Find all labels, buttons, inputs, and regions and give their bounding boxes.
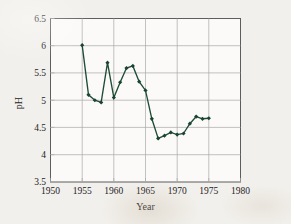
y-axis-title: pH (13, 97, 24, 109)
x-tick-label: 1975 (199, 186, 218, 196)
y-tick-label: 5 (41, 96, 46, 106)
x-tick-label: 1950 (41, 186, 60, 196)
y-tick-label: 4.5 (34, 123, 46, 133)
x-tick-label: 1980 (231, 186, 250, 196)
x-tick-label: 1965 (136, 186, 155, 196)
x-axis-tick-labels: 1950 1955 1960 1965 1970 1975 1980 (41, 186, 250, 196)
y-tick-label: 5.5 (34, 68, 46, 78)
x-tick-label: 1960 (104, 186, 123, 196)
y-axis-tick-labels: 6.5 6 5.5 5 4.5 4 3.5 (34, 14, 46, 188)
x-axis-title: Year (136, 201, 155, 212)
x-tick-label: 1970 (168, 186, 187, 196)
chart-figure: 6.5 6 5.5 5 4.5 4 3.5 1950 1955 1960 196… (0, 0, 291, 224)
x-tick-label: 1955 (73, 186, 92, 196)
y-tick-label: 6 (41, 41, 46, 51)
ph-vs-year-line-chart: 6.5 6 5.5 5 4.5 4 3.5 1950 1955 1960 196… (0, 0, 291, 224)
y-tick-label: 6.5 (34, 14, 46, 24)
y-tick-label: 4 (41, 150, 46, 160)
